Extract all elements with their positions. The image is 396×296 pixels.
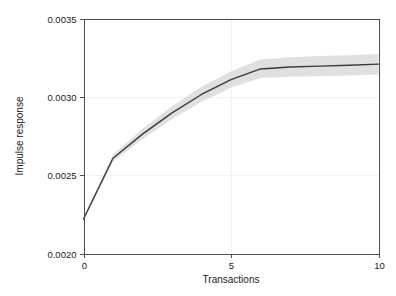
y-axis-title: Impulse response bbox=[14, 96, 25, 175]
y-tick-label: 0.0020 bbox=[47, 249, 76, 260]
chart-figure: 0.00200.00250.00300.0035 0510 Impulse re… bbox=[0, 0, 396, 296]
y-tick-label: 0.0030 bbox=[47, 92, 76, 103]
x-tick-label: 0 bbox=[82, 260, 87, 271]
x-axis-title: Transactions bbox=[203, 274, 260, 285]
y-tick-label: 0.0035 bbox=[47, 14, 76, 25]
x-tick-label: 5 bbox=[229, 260, 234, 271]
x-tick-label: 10 bbox=[374, 260, 385, 271]
impulse-response-chart: 0.00200.00250.00300.0035 0510 Impulse re… bbox=[0, 0, 396, 296]
y-tick-label: 0.0025 bbox=[47, 170, 76, 181]
